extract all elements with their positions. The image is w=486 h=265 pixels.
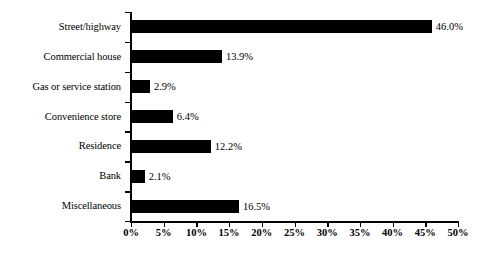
bar-value-label: 46.0%: [432, 20, 463, 33]
y-axis-tick: [125, 72, 130, 73]
bar: [131, 110, 173, 123]
x-axis-tick-label: 25%: [284, 226, 305, 240]
x-axis-tick-label: 35%: [349, 226, 370, 240]
plot-area: 46.0%13.9%2.9%6.4%12.2%2.1%16.5%: [131, 12, 458, 221]
x-axis-tick-label: 10%: [186, 226, 207, 240]
bar-value-label: 2.9%: [150, 80, 176, 93]
y-axis-tick: [125, 161, 130, 162]
x-axis-tick-label: 45%: [415, 226, 436, 240]
x-axis-labels: 0%5%10%15%20%25%30%35%40%45%50%: [131, 226, 458, 242]
x-axis-tick-label: 0%: [123, 226, 139, 240]
category-label: Bank: [99, 170, 121, 182]
category-label: Convenience store: [45, 111, 121, 123]
category-label: Commercial house: [44, 51, 121, 63]
y-axis-tick: [125, 102, 130, 103]
y-axis-tick: [125, 12, 130, 13]
bar-value-label: 2.1%: [145, 170, 171, 183]
bar: [131, 140, 211, 153]
x-axis-tick-label: 30%: [317, 226, 338, 240]
category-label: Residence: [79, 140, 121, 152]
bar-value-label: 6.4%: [173, 110, 199, 123]
bar-value-label: 16.5%: [239, 200, 270, 213]
x-axis-tick-label: 40%: [382, 226, 403, 240]
y-axis-tick: [125, 131, 130, 132]
bar-chart: Street/highwayCommercial houseGas or ser…: [0, 0, 486, 265]
y-axis-tick: [125, 191, 130, 192]
bar: [131, 80, 150, 93]
x-axis-tick-label: 50%: [448, 226, 469, 240]
y-axis-tick: [125, 221, 130, 222]
category-label: Gas or service station: [33, 81, 121, 93]
category-label: Miscellaneous: [62, 200, 121, 212]
bar: [131, 170, 145, 183]
x-axis-tick-label: 5%: [156, 226, 172, 240]
bar-value-label: 12.2%: [211, 140, 242, 153]
x-axis-tick-label: 20%: [251, 226, 272, 240]
bar: [131, 50, 222, 63]
category-axis-labels: Street/highwayCommercial houseGas or ser…: [0, 12, 126, 221]
x-axis-tick-label: 15%: [219, 226, 240, 240]
bar: [131, 200, 239, 213]
category-label: Street/highway: [59, 21, 121, 33]
y-axis-tick: [125, 42, 130, 43]
bar: [131, 20, 432, 33]
bar-value-label: 13.9%: [222, 50, 253, 63]
